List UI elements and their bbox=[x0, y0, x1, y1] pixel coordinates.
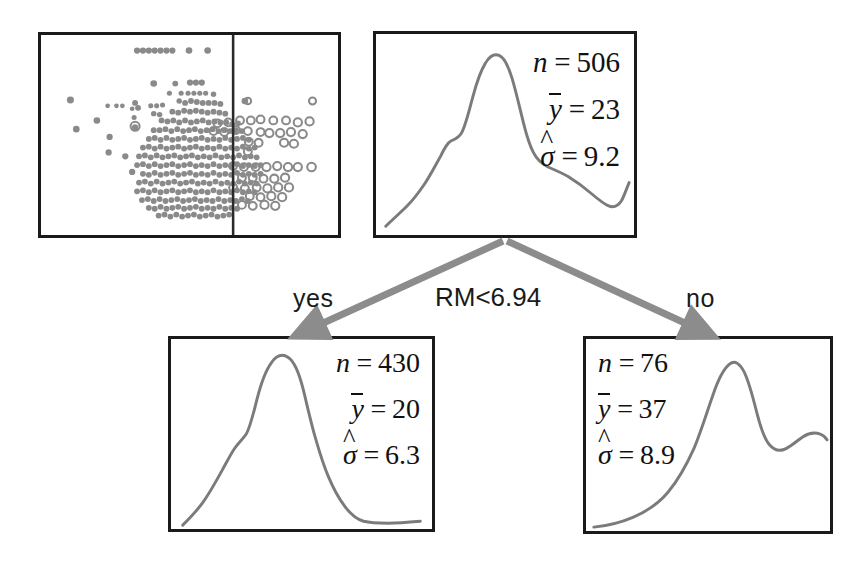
node-left-density-curve bbox=[171, 339, 432, 529]
node-right-density-curve bbox=[586, 339, 830, 531]
edge-label-yes: yes bbox=[293, 284, 333, 313]
node-left-panel: n = 430 y = 20 σ = 6.3 bbox=[168, 336, 435, 532]
edge-label-split-condition: RM<6.94 bbox=[435, 282, 541, 313]
scatter-panel bbox=[38, 32, 341, 238]
node-right-panel: n = 76 y = 37 σ = 8.9 bbox=[583, 336, 833, 534]
node-root-density-curve bbox=[376, 34, 634, 235]
edge-label-no: no bbox=[686, 284, 715, 313]
scatter-plot bbox=[41, 35, 338, 235]
node-root-panel: n = 506 y = 23 σ = 9.2 bbox=[373, 31, 637, 238]
tree-diagram-canvas: yes RM<6.94 no bbox=[0, 0, 864, 579]
